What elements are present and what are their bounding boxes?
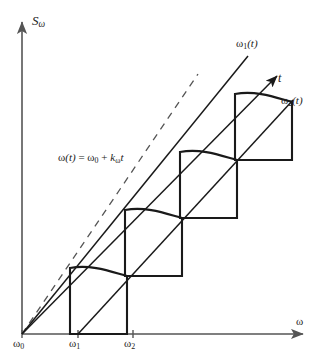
- t-axis-line: [22, 76, 277, 334]
- figure-container: Sω ω ω0 ω1 ω2 ω1(t) t ω2(t) ω(t) = ω0 + …: [0, 0, 324, 361]
- tick-label-omega-2-sub: 2: [131, 342, 135, 351]
- equation-term1-base: ω: [87, 151, 94, 163]
- tick-label-omega-1: ω1: [69, 338, 80, 351]
- equation-equals: =: [78, 151, 84, 163]
- y-axis-label-sub: ω: [39, 19, 46, 29]
- sweep-equation-label: ω(t) = ω0 + kωt: [58, 152, 123, 165]
- diagram-canvas: [0, 0, 324, 361]
- omega-1-t-label-tail: (t): [247, 37, 257, 49]
- omega-1-t-line: [22, 56, 248, 334]
- tick-label-omega-0: ω0: [13, 338, 24, 351]
- omega-1-t-label: ω1(t): [236, 38, 258, 51]
- omega-sweep-dashed-line: [22, 74, 198, 334]
- equation-term1-sub: 0: [95, 156, 99, 165]
- tick-label-omega-2: ω2: [124, 338, 135, 351]
- omega-2-t-label: ω2(t): [281, 95, 303, 108]
- equation-lhs-arg: (t): [65, 151, 75, 163]
- axis-group: [22, 22, 303, 334]
- spectral-box-3: [180, 151, 237, 218]
- tick-label-omega-1-sub: 1: [76, 342, 80, 351]
- equation-plus: +: [101, 151, 107, 163]
- tick-label-omega-0-sub: 0: [20, 342, 24, 351]
- t-axis-label: t: [278, 72, 281, 84]
- omega-2-t-label-tail: (t): [292, 94, 302, 106]
- x-axis-label: ω: [296, 316, 303, 327]
- equation-term2-tail: t: [120, 151, 123, 163]
- y-axis-label: Sω: [32, 14, 45, 30]
- spectral-box-2: [125, 209, 182, 276]
